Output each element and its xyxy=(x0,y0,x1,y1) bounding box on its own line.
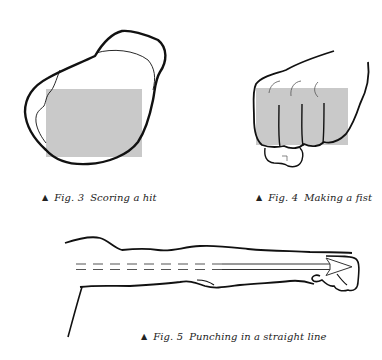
fig4-fist-illustration xyxy=(254,51,369,167)
triangle-marker-icon: ▲ xyxy=(256,193,262,202)
fig5-title: Punching in a straight line xyxy=(189,331,326,342)
fig3-fist-illustration xyxy=(25,31,165,164)
fig4-caption: ▲Fig. 4Making a fist xyxy=(256,192,372,203)
fig5-arm-bottom-edge xyxy=(80,281,314,288)
triangle-marker-icon: ▲ xyxy=(42,193,48,202)
fig3-number: Fig. 3 xyxy=(54,192,84,203)
fig5-arm-illustration xyxy=(65,237,359,337)
fig5-elbow-line xyxy=(68,287,82,337)
fig5-arm-top-edge xyxy=(65,237,352,253)
arrow-head-icon xyxy=(326,258,352,276)
triangle-marker-icon: ▲ xyxy=(141,332,147,341)
fig5-caption: ▲Fig. 5Punching in a straight line xyxy=(141,331,327,342)
fig4-thumbnail xyxy=(282,156,287,161)
fig4-title: Making a fist xyxy=(304,192,372,203)
fig5-number: Fig. 5 xyxy=(153,331,183,342)
fig3-knuckle-line xyxy=(96,50,155,90)
illustration-canvas xyxy=(0,0,382,360)
fig3-scoring-area xyxy=(46,89,142,157)
fig5-fist-inner xyxy=(337,274,347,285)
fig4-number: Fig. 4 xyxy=(268,192,298,203)
fig3-caption: ▲Fig. 3Scoring a hit xyxy=(42,192,157,203)
fig3-title: Scoring a hit xyxy=(90,192,157,203)
fig4-thumb-outline xyxy=(265,148,303,167)
